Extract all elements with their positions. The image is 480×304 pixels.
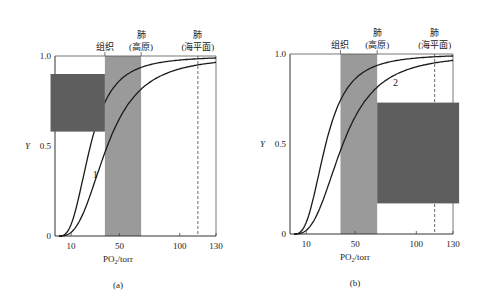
- region-label: 组织: [96, 41, 114, 52]
- overlay-box: [377, 103, 459, 204]
- region-label: 组织: [331, 39, 349, 50]
- x-tick-label: 130: [209, 241, 223, 251]
- y-axis-label: Y: [25, 141, 31, 151]
- region-label: 肺: [373, 28, 382, 38]
- y-tick-label: 0: [282, 229, 287, 239]
- curve-label: 2: [393, 77, 398, 88]
- y-tick-label: 1.0: [275, 49, 287, 59]
- x-axis-label: PO2/torr: [340, 252, 370, 263]
- x-tick-label: 10: [302, 239, 312, 249]
- shaded-band: [105, 56, 141, 236]
- y-tick-label: 0.5: [40, 141, 52, 151]
- region-label: 肺: [193, 30, 202, 40]
- y-tick-label: 0.5: [275, 139, 287, 149]
- x-tick-label: 50: [115, 241, 125, 251]
- x-tick-label: 50: [351, 239, 361, 249]
- shaded-band: [340, 54, 377, 234]
- y-tick-label: 1.0: [40, 51, 52, 61]
- overlay-box: [51, 74, 105, 132]
- x-tick-label: 10: [67, 241, 77, 251]
- x-tick-label: 100: [410, 239, 424, 249]
- panel-caption: (b): [350, 278, 361, 288]
- y-tick-label: 0: [47, 231, 52, 241]
- region-label: (高原): [365, 39, 389, 50]
- x-axis-label: PO2/torr: [103, 254, 133, 265]
- region-label: 肺: [137, 30, 146, 40]
- curve-label: 1: [93, 169, 98, 180]
- panel-b-chart: 200.51.0Y1050100130PO2/torr(b)组织肺(高原)肺(海…: [260, 28, 460, 288]
- panel-caption: (a): [113, 280, 123, 290]
- oxygen-binding-figure: 100.51.0Y1050100130PO2/torr(a)组织肺(高原)肺(海…: [0, 0, 480, 304]
- region-label: (高原): [129, 41, 153, 52]
- x-tick-label: 130: [446, 239, 460, 249]
- region-label: 肺: [430, 28, 439, 38]
- region-label: (海平面): [181, 41, 214, 52]
- y-axis-label: Y: [260, 139, 266, 149]
- panel-a-chart: 100.51.0Y1050100130PO2/torr(a)组织肺(高原)肺(海…: [25, 30, 223, 290]
- region-label: (海平面): [418, 39, 451, 50]
- x-tick-label: 100: [173, 241, 187, 251]
